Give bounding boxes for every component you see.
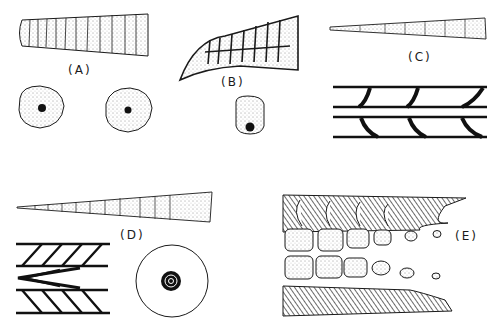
panel-e: [283, 195, 466, 316]
spine-c: [330, 18, 486, 39]
panel-label-b: (B): [221, 75, 245, 89]
panel-label-e: (E): [455, 229, 478, 243]
panel-label-a: (A): [68, 63, 92, 77]
cross-section-a2: [106, 88, 152, 132]
upper-wall-e: [283, 195, 466, 232]
cross-section-a1: [19, 86, 64, 128]
panel-d: [16, 192, 212, 317]
spine-a: [20, 14, 149, 56]
panel-label-d: (D): [120, 228, 145, 242]
panel-c: [330, 18, 487, 137]
longitudinal-section-c: [333, 87, 487, 137]
cross-section-d: [136, 245, 208, 317]
cross-section-b: [236, 96, 264, 134]
chevron-section-d: [16, 244, 110, 313]
lower-chambers-e: [285, 256, 440, 279]
panel-label-c: (C): [408, 50, 432, 64]
upper-chambers-e: [285, 229, 441, 251]
spine-d: [17, 192, 212, 222]
